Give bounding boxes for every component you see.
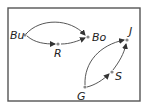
- node-s-dot: [110, 70, 113, 73]
- node-g-dot: [83, 85, 86, 88]
- node-label-r: R: [54, 47, 62, 60]
- node-label-g: G: [77, 90, 86, 103]
- node-label-bo: Bo: [92, 31, 107, 44]
- node-label-bu: Bu: [10, 29, 25, 42]
- node-r-dot: [56, 42, 59, 45]
- graph-diagram: Bu R Bo J S G: [0, 0, 150, 111]
- node-label-s: S: [115, 70, 122, 83]
- node-j-dot: [125, 38, 128, 41]
- diagram-frame: [8, 8, 140, 101]
- node-bo-dot: [86, 35, 89, 38]
